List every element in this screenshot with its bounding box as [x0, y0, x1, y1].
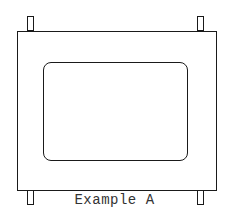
pin-top-left — [27, 16, 34, 31]
diagram: Example A — [0, 0, 229, 221]
inner-window — [43, 62, 188, 161]
figure-caption: Example A — [0, 192, 229, 208]
pin-top-right — [197, 16, 204, 31]
